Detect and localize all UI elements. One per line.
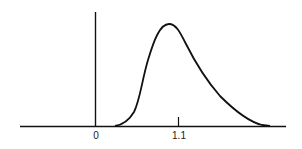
tick-label-1-1: 1.1 [172,131,186,141]
density-curve [115,24,270,126]
density-chart [0,0,302,149]
tick-label-zero: 0 [93,131,99,141]
